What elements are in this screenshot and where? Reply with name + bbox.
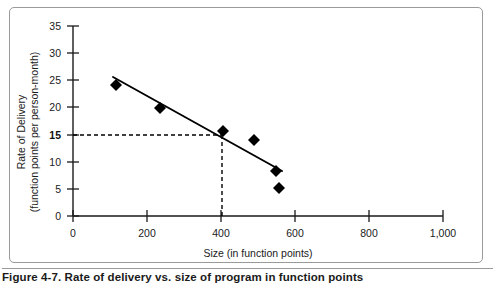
x-axis-tick-labels: 0 200 400 600 800 1,000	[70, 227, 456, 239]
x-tick-label-200: 200	[138, 227, 156, 239]
x-tick-label-800: 800	[360, 227, 378, 239]
data-point-marker	[154, 102, 166, 114]
y-tick-label-5: 5	[55, 183, 61, 195]
figure-container: Rate of Delivery (function points per pe…	[0, 0, 495, 286]
data-point-marker	[270, 165, 282, 177]
y-tick-label-20: 20	[49, 101, 61, 113]
x-tick-label-0: 0	[70, 227, 76, 239]
scatter-chart: Rate of Delivery (function points per pe…	[0, 0, 495, 266]
x-tick-label-400: 400	[212, 227, 230, 239]
y-axis-tick-labels: 35 30 25 20 15 10 5 0	[49, 20, 61, 222]
x-tick-label-1000: 1,000	[430, 227, 456, 239]
trend-line	[113, 77, 282, 171]
y-tick-label-15: 15	[49, 129, 61, 141]
y-tick-label-30: 30	[49, 47, 61, 59]
y-tick-label-0: 0	[55, 210, 61, 222]
data-point-marker	[273, 182, 285, 194]
y-tick-label-10: 10	[49, 156, 61, 168]
figure-caption: Figure 4-7. Rate of delivery vs. size of…	[2, 271, 493, 283]
y-tick-label-35: 35	[49, 20, 61, 32]
data-points	[110, 79, 285, 194]
data-point-marker	[248, 134, 260, 146]
caption-divider	[2, 268, 493, 269]
x-tick-label-600: 600	[286, 227, 304, 239]
y-axis-title-line1: Rate of Delivery	[15, 94, 27, 169]
y-tick-label-25: 25	[49, 74, 61, 86]
y-axis-title-line2: (function points per person-month)	[28, 52, 40, 213]
x-axis-title: Size (in function points)	[203, 247, 312, 259]
